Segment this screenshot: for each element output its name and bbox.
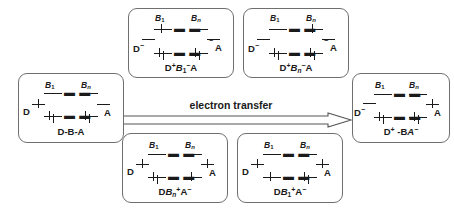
electron-transfer-label: electron transfer <box>110 99 352 111</box>
spin-up <box>312 24 313 33</box>
orbital-donor <box>32 104 45 105</box>
state-box-d-plus-b1-minus-a: B1 Bn ▬ ▬ D− A − <box>128 8 234 78</box>
spin-up <box>142 159 143 168</box>
acceptor-site: A <box>434 107 441 118</box>
spin-up <box>432 99 433 108</box>
spin-up <box>153 172 154 181</box>
orbital-bn-homo <box>184 177 202 178</box>
state-caption: D-B-A <box>19 126 123 137</box>
orbital-b1-lumo <box>269 29 287 30</box>
state-box-dbn-plus-a-minus: B1 Bn ▬ ▬ D A <box>122 133 228 203</box>
orbital-acceptor <box>426 104 439 105</box>
spin-up <box>322 159 323 168</box>
orbital-acceptor <box>97 104 110 105</box>
orbital-donor <box>251 164 264 165</box>
state-box-initial: B1 Bn ▬ ▬ D A <box>18 73 124 143</box>
orbital-b1-homo <box>44 116 62 117</box>
orbital-bn-lumo <box>299 154 317 155</box>
state-caption: D+Bn−A <box>244 62 348 74</box>
donor-site: D− <box>354 106 365 118</box>
donor-site: D− <box>133 42 144 54</box>
orbital-bn-lumo <box>80 93 98 94</box>
donor-site: D <box>242 166 249 177</box>
donor-site: D <box>127 166 134 177</box>
orbital-donor <box>257 39 270 40</box>
bridge-label-b1: B1 <box>264 140 273 150</box>
orbital-bn-lumo <box>305 29 323 30</box>
state-box-d-plus-bn-minus-a: B1 Bn ▬ ▬ D− A − <box>243 8 349 78</box>
donor-site: D <box>23 105 30 117</box>
orbital-b1-homo <box>154 53 172 54</box>
orbital-bn-lumo <box>184 154 202 155</box>
orbital-bn-lumo <box>190 29 208 30</box>
orbital-bn-homo <box>190 53 208 54</box>
orbital-b1-lumo <box>148 154 166 155</box>
orbital-bn-lumo <box>409 94 427 95</box>
state-caption: DB1+A− <box>238 186 342 198</box>
bridge-label-b1: B1 <box>270 13 279 23</box>
orbital-b1-lumo <box>44 93 62 94</box>
spin-up <box>379 112 380 121</box>
spin-down <box>418 115 419 124</box>
spin-up <box>49 111 50 120</box>
acceptor-site: A <box>215 42 222 53</box>
orbital-scheme: B1 Bn ▬ ▬ D A ▬ ▬ <box>238 134 342 202</box>
state-box-db1-plus-a-minus: B1 Bn ▬ ▬ D A ▬ ▬ <box>237 133 343 203</box>
orbital-donor <box>363 103 376 104</box>
orbital-b1-homo <box>263 177 281 178</box>
bridge-label-b1: B1 <box>375 80 384 90</box>
spin-down <box>308 175 309 184</box>
orbital-b1-lumo <box>263 154 281 155</box>
donor-site: D− <box>248 42 259 54</box>
spin-down <box>163 51 164 60</box>
orbital-acceptor <box>316 164 329 165</box>
electron-transfer-arrow: electron transfer <box>110 100 352 126</box>
spin-up <box>257 159 258 168</box>
spin-up <box>159 48 160 57</box>
bridge-label-b1: B1 <box>45 80 54 90</box>
orbital-b1-lumo <box>154 29 172 30</box>
orbital-b1-homo <box>374 117 392 118</box>
orbital-b1-homo <box>269 53 287 54</box>
orbital-b1-lumo <box>374 94 392 95</box>
bridge-label-b1: B1 <box>149 140 158 150</box>
acceptor-charge: − <box>209 37 213 44</box>
orbital-bn-homo <box>299 177 317 178</box>
orbital-acceptor <box>201 164 214 165</box>
orbital-b1-homo <box>148 177 166 178</box>
spin-down <box>278 51 279 60</box>
orbital-scheme: B1 Bn ▬ ▬ D− A − <box>129 9 233 77</box>
spin-up <box>85 111 86 120</box>
spin-down <box>157 175 158 184</box>
state-caption: DBn+A− <box>123 186 227 198</box>
spin-down <box>89 114 90 123</box>
spin-down <box>314 51 315 60</box>
orbital-scheme: B1 Bn ▬ ▬ D A <box>123 134 227 202</box>
spin-up <box>38 99 39 108</box>
orbital-bn-homo <box>80 116 98 117</box>
bridge-label-b1: B1 <box>155 13 164 23</box>
spin-up <box>161 24 162 33</box>
acceptor-site: A <box>330 42 337 53</box>
spin-down <box>53 114 54 123</box>
spin-up <box>207 159 208 168</box>
diagram-canvas: electron transfer B1 Bn ▬ ▬ D <box>0 0 454 215</box>
spin-up <box>270 172 271 181</box>
spin-up <box>191 172 192 181</box>
block-arrow-icon <box>110 112 352 128</box>
spin-up <box>195 48 196 57</box>
orbital-donor <box>136 164 149 165</box>
spin-up <box>310 48 311 57</box>
spin-down <box>199 51 200 60</box>
spin-up <box>274 48 275 57</box>
state-caption: D+ -BA− <box>353 126 449 137</box>
spin-down <box>383 115 384 124</box>
acceptor-site: A <box>324 167 331 178</box>
acceptor-charge: − <box>324 37 328 44</box>
spin-up <box>304 172 305 181</box>
spin-up <box>414 112 415 121</box>
orbital-bn-homo <box>305 53 323 54</box>
acceptor-site: A <box>209 167 216 178</box>
orbital-donor <box>142 39 155 40</box>
orbital-scheme: B1 Bn ▬ ▬ D− A − <box>244 9 348 77</box>
